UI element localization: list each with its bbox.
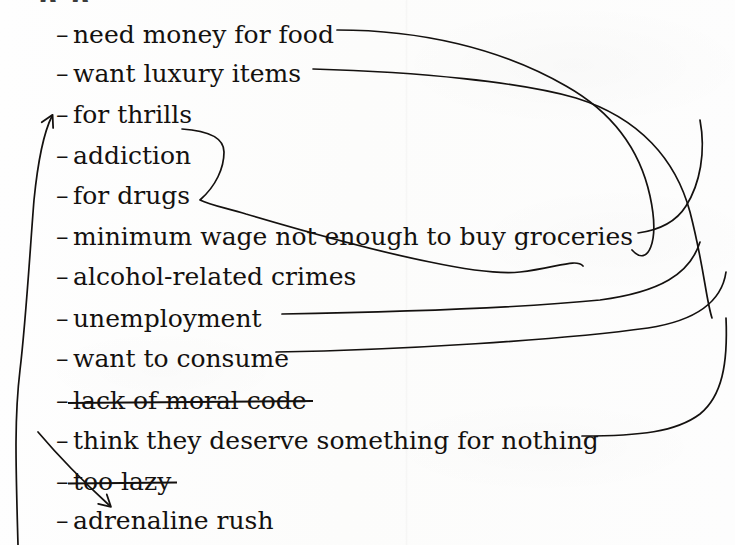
list-item-label: addiction bbox=[73, 143, 191, 168]
list-bullet-dash: – bbox=[56, 61, 73, 86]
list-item-label: minimum wage not enough to buy groceries bbox=[73, 224, 633, 249]
list-item-need-money-for-food[interactable]: –need money for food bbox=[56, 22, 334, 47]
list-bullet-dash: – bbox=[56, 183, 73, 208]
list-item-label: too lazy bbox=[73, 469, 171, 494]
list-item-want-luxury-items[interactable]: –want luxury items bbox=[56, 61, 301, 86]
list-item-for-thrills[interactable]: –for thrills bbox=[56, 102, 192, 127]
list-item-for-drugs[interactable]: –for drugs bbox=[56, 183, 190, 208]
list-bullet-dash: – bbox=[56, 346, 73, 371]
list-bullet-dash: – bbox=[56, 508, 73, 533]
list-item-adrenaline-rush[interactable]: –adrenaline rush bbox=[56, 508, 273, 533]
list-item-label: unemployment bbox=[73, 306, 262, 331]
list-item-label: need money for food bbox=[73, 22, 334, 47]
list-item-want-to-consume[interactable]: –want to consume bbox=[56, 346, 289, 371]
list-item-think-they-deserve-something-for-nothing[interactable]: –think they deserve something for nothin… bbox=[56, 428, 599, 453]
list-bullet-dash: – bbox=[56, 143, 73, 168]
list-item-minimum-wage-not-enough-to-buy-groceries[interactable]: –minimum wage not enough to buy grocerie… bbox=[56, 224, 633, 249]
list-item-label: alcohol-related crimes bbox=[73, 264, 356, 289]
list-bullet-dash: – bbox=[56, 428, 73, 453]
brainstorm-list: –need money for food–want luxury items–f… bbox=[0, 0, 735, 545]
scanned-page: p p –need money for food–want luxury ite… bbox=[0, 0, 735, 545]
list-item-label: think they deserve something for nothing bbox=[73, 428, 599, 453]
list-item-lack-of-moral-code[interactable]: –lack of moral code bbox=[56, 388, 307, 413]
list-bullet-dash: – bbox=[56, 306, 73, 331]
list-bullet-dash: – bbox=[56, 264, 73, 289]
list-item-label: for drugs bbox=[73, 183, 190, 208]
list-bullet-dash: – bbox=[56, 102, 73, 127]
list-item-unemployment[interactable]: –unemployment bbox=[56, 306, 262, 331]
list-item-too-lazy[interactable]: –too lazy bbox=[56, 469, 171, 494]
list-bullet-dash: – bbox=[56, 388, 73, 413]
list-item-label: adrenaline rush bbox=[73, 508, 273, 533]
list-item-alcohol-related-crimes[interactable]: –alcohol-related crimes bbox=[56, 264, 356, 289]
list-item-addiction[interactable]: –addiction bbox=[56, 143, 191, 168]
list-item-label: want luxury items bbox=[73, 61, 301, 86]
list-item-label: lack of moral code bbox=[73, 388, 307, 413]
list-bullet-dash: – bbox=[56, 22, 73, 47]
list-item-label: want to consume bbox=[73, 346, 289, 371]
list-bullet-dash: – bbox=[56, 224, 73, 249]
list-item-label: for thrills bbox=[73, 102, 192, 127]
